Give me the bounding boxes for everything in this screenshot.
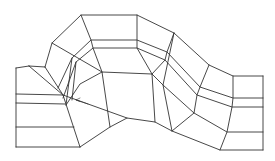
- col-d-line: [137, 15, 155, 122]
- mesh-rows: [45, 15, 263, 150]
- col-h-line: [220, 76, 233, 150]
- left-h2-line: [16, 103, 65, 104]
- col-b-line: [52, 43, 102, 72]
- inner-diag-line: [63, 95, 127, 118]
- mesh-columns: [16, 15, 263, 150]
- col-a-line: [45, 67, 63, 95]
- arrow-icon: [76, 98, 88, 104]
- bottom-boundary-line: [80, 118, 263, 150]
- diag-inner-line: [29, 66, 45, 67]
- col-e-line: [152, 33, 174, 74]
- arrow-head: [76, 98, 80, 102]
- channel-mesh-diagram: [0, 0, 275, 161]
- diag-outer-line: [29, 66, 80, 147]
- left-box-top-line: [16, 66, 29, 68]
- left-h1-line: [16, 94, 63, 95]
- row-1-line: [58, 40, 263, 98]
- top-boundary-line: [45, 15, 263, 76]
